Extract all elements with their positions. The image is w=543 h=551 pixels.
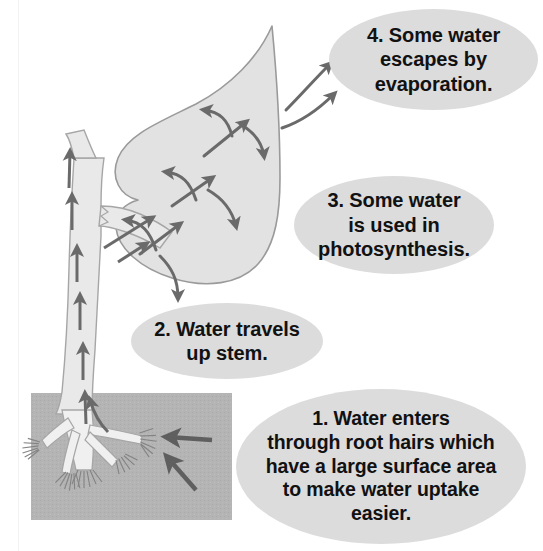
stem-arrow-1: [85, 394, 86, 424]
callout-2-water-travels-up-stem: 2. Water travels up stem.: [131, 303, 323, 379]
stem-arrow-6: [69, 152, 70, 188]
evaporation-arrow-lower: [282, 94, 334, 128]
callout-4-evaporation: 4. Some water escapes by evaporation.: [329, 9, 538, 110]
callout-1-water-enters-root-hairs: 1. Water enters through root hairs which…: [236, 389, 526, 544]
callout-3-photosynthesis: 3. Some water is used in photosynthesis.: [294, 176, 494, 274]
leaf: [115, 26, 280, 284]
diagram-canvas: 4. Some water escapes by evaporation. 3.…: [0, 0, 543, 551]
root-uptake-arrow-horizontal: [168, 437, 212, 440]
evaporation-arrows: [282, 64, 334, 128]
